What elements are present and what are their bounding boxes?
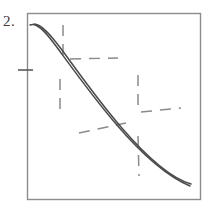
figure-page: 2. xyxy=(0,0,212,213)
dash-horizontal-right xyxy=(141,108,181,112)
curve-outline-upper xyxy=(30,24,190,186)
dash-vertical-lower xyxy=(138,136,139,176)
figure-canvas xyxy=(0,0,212,213)
dashed-construction-lines xyxy=(60,25,181,176)
decreasing-curve xyxy=(30,24,191,186)
dash-horizontal-upper xyxy=(70,58,118,59)
plot-frame xyxy=(28,14,201,200)
